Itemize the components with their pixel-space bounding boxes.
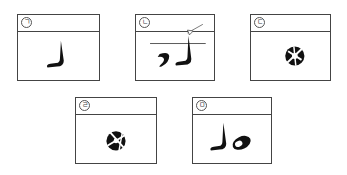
panel-header: ㄴ <box>136 15 214 32</box>
panel-header: ㄱ <box>18 15 99 32</box>
panel-4: ㄹ <box>75 97 157 164</box>
panel-3: ㄷ <box>250 14 331 81</box>
panel-2: ㄴ <box>135 14 215 81</box>
panel-header: ㄹ <box>76 98 156 115</box>
panel-body <box>18 32 99 80</box>
panel-label: ㄱ <box>21 17 32 28</box>
panel-1: ㄱ <box>17 14 100 81</box>
panel-body <box>136 32 214 80</box>
panel-5: ㅁ <box>192 97 272 164</box>
panel-body <box>251 32 330 80</box>
panel-body <box>193 115 271 163</box>
hook-stroke-figure <box>18 32 99 80</box>
panel-label: ㄹ <box>79 100 90 111</box>
panel-label: ㄴ <box>139 17 150 28</box>
crossed-circle-rotated-figure <box>76 115 156 163</box>
stroke-and-oval-figure <box>193 115 271 163</box>
panel-label: ㄷ <box>254 17 265 28</box>
panel-header: ㄷ <box>251 15 330 32</box>
panel-body <box>76 115 156 163</box>
panel-header: ㅁ <box>193 98 271 115</box>
crossing-stroke-figure <box>136 32 214 80</box>
panel-label: ㅁ <box>196 100 207 111</box>
crossed-circle-figure <box>251 32 330 80</box>
